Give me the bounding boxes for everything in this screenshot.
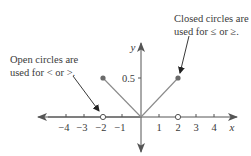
x-axis-label: x	[229, 121, 235, 133]
x-tick-label: −1	[114, 122, 125, 133]
closed-circle-point	[100, 75, 105, 80]
open-circle-point	[175, 114, 180, 119]
x-tick-label: 1	[156, 122, 161, 133]
closed-circles-annotation: Closed circles are used for ≤ or ≥.	[174, 12, 249, 38]
annotation-line: Closed circles are	[174, 12, 249, 25]
annotation-line: used for ≤ or ≥.	[174, 25, 249, 38]
inequality-diagram: −4 −3 −2 −1 1 2 3 4 x y 0.5 Open circles…	[0, 0, 251, 156]
open-circle-point	[100, 114, 105, 119]
annotation-line: Open circles are	[10, 53, 78, 66]
x-tick-label: −3	[76, 122, 87, 133]
x-tick-label: 3	[193, 122, 198, 133]
annotation-line: used for < or >.	[10, 66, 78, 79]
x-tick-label: 2	[175, 122, 180, 133]
y-tick-label: 0.5	[122, 73, 135, 84]
x-tick-label: −4	[58, 122, 70, 133]
open-circle-pointer-arrow	[73, 76, 99, 111]
y-axis-label: y	[130, 41, 136, 53]
open-circles-annotation: Open circles are used for < or >.	[10, 53, 78, 79]
closed-circle-pointer-arrow	[180, 36, 189, 73]
graph-segment-right	[141, 78, 178, 117]
closed-circle-point	[175, 75, 180, 80]
x-tick-label: 4	[211, 122, 217, 133]
x-tick-label: −2	[95, 122, 106, 133]
